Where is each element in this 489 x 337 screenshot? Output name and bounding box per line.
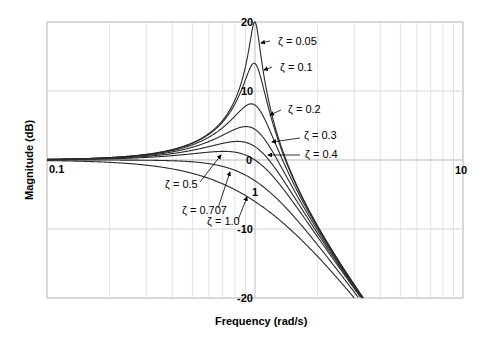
curve-zeta-0.1 — [47, 63, 363, 298]
y-tick-10: 10 — [241, 85, 253, 97]
x-axis-label: Frequency (rad/s) — [215, 315, 308, 327]
x-tick-1: 1 — [252, 186, 258, 198]
annotation-label: ζ = 0.05 — [278, 35, 317, 47]
annotation-group: ζ = 0.05 ζ = 0.1 ζ = 0.2 ζ = 0.3 ζ = 0.4… — [165, 35, 338, 227]
annotation-zeta-0.3: ζ = 0.3 — [272, 129, 337, 142]
annotation-zeta-0.1: ζ = 0.1 — [264, 61, 313, 73]
annotation-label: ζ = 0.5 — [165, 178, 198, 190]
y-tick-minus-20: -20 — [237, 292, 253, 304]
y-axis-label: Magnitude (dB) — [23, 120, 35, 200]
annotation-label: ζ = 0.4 — [305, 148, 338, 160]
annotation-label: ζ = 0.1 — [280, 61, 313, 73]
annotation-label: ζ = 0.3 — [304, 129, 337, 141]
annotation-label: ζ = 1.0 — [207, 215, 240, 227]
bode-magnitude-chart: 0.1 1 10 20 10 0 -10 -20 Frequency (rad/… — [0, 0, 489, 337]
x-tick-0.1: 0.1 — [49, 163, 64, 175]
annotation-label: ζ = 0.2 — [288, 103, 321, 115]
y-tick-20: 20 — [241, 16, 253, 28]
annotation-zeta-0.2: ζ = 0.2 — [270, 103, 321, 115]
y-tick-0: 0 — [246, 154, 252, 166]
x-tick-10: 10 — [455, 164, 467, 176]
annotation-zeta-0.05: ζ = 0.05 — [261, 35, 317, 47]
